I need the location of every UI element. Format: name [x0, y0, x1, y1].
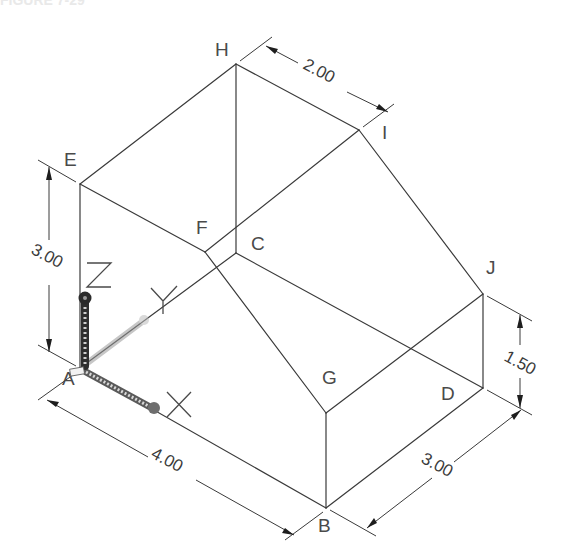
dimension-line	[196, 480, 294, 535]
arrowhead	[266, 46, 278, 54]
arrowhead	[517, 315, 523, 328]
vertex-label-F: F	[196, 217, 208, 238]
ucs-x-axis	[86, 372, 160, 414]
arrowhead	[511, 410, 521, 420]
dimension-text: 2.00	[300, 55, 338, 87]
edge-B-D	[326, 388, 483, 508]
dimension-text: 3.00	[418, 449, 456, 481]
extension-line	[240, 37, 272, 61]
dimension-bottom: 4.00	[38, 372, 323, 540]
vertex-label-E: E	[64, 149, 77, 170]
dimension-top: 2.00	[240, 37, 394, 127]
isometric-drawing: 2.00 3.00 4.00 3.00 1.50	[0, 0, 562, 560]
ucs-icon	[70, 263, 191, 417]
edge-H-I	[236, 64, 359, 130]
dimension-text: 1.50	[501, 347, 539, 379]
extension-line	[38, 345, 76, 366]
arrowhead	[517, 395, 523, 408]
extension-line	[330, 510, 376, 536]
arrowhead	[367, 518, 377, 528]
edge-F-G	[205, 252, 326, 413]
ucs-x-label	[167, 392, 191, 417]
edge-E-H	[80, 64, 236, 184]
dimension-line	[454, 410, 521, 462]
dimension-line	[47, 400, 148, 457]
extension-line	[487, 390, 532, 415]
extension-line	[487, 296, 532, 321]
dimension-left: 3.00	[28, 160, 76, 366]
dimension-right: 1.50	[487, 296, 539, 408]
edge-I-J	[359, 130, 483, 294]
arrowhead	[46, 167, 52, 180]
vertex-label-I: I	[382, 122, 387, 143]
object-edges	[80, 64, 483, 508]
ucs-y-axis	[86, 315, 149, 364]
dimension-right-bottom: 3.00	[330, 390, 532, 536]
vertex-label-H: H	[215, 39, 229, 60]
edge-E-F	[80, 184, 205, 252]
vertex-label-G: G	[322, 367, 337, 388]
arrowhead	[376, 104, 388, 112]
dimension-text: 3.00	[28, 240, 66, 272]
vertex-label-D: D	[441, 383, 455, 404]
edge-F-I	[205, 130, 359, 252]
dimension-text: 4.00	[148, 444, 186, 476]
vertex-label-J: J	[486, 257, 496, 278]
edge-G-J	[326, 294, 483, 413]
dimension-line	[367, 478, 432, 528]
vertex-label-B: B	[318, 515, 331, 536]
vertex-label-C: C	[251, 233, 265, 254]
ucs-z-label	[87, 263, 111, 287]
edge-C-D	[236, 253, 483, 388]
